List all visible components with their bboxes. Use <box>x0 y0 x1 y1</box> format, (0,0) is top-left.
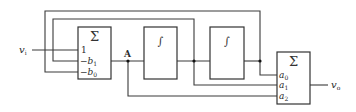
output-signal-label: vo <box>331 79 341 91</box>
junction-dot-1 <box>192 59 195 62</box>
integral-icon: ∫ <box>158 35 164 48</box>
sum-block-right: Σ a0 a1 a2 <box>277 52 310 104</box>
integral-icon: ∫ <box>224 35 230 48</box>
node-a-dot <box>126 59 129 62</box>
sum-block-left: Σ 1 −b1 −b0 <box>78 27 111 79</box>
sum-left-input-1: 1 <box>81 45 87 55</box>
junction-dot-2 <box>258 59 261 62</box>
sigma-icon: Σ <box>90 29 99 44</box>
a0-wire <box>260 61 277 75</box>
integrator-block-2: ∫ <box>210 27 244 79</box>
integrator-block-1: ∫ <box>144 27 177 79</box>
sigma-icon: Σ <box>289 54 298 69</box>
node-a-label: A <box>123 49 132 59</box>
block-diagram: Σ 1 −b1 −b0 ∫ ∫ Σ a0 a1 a2 vi <box>0 0 356 112</box>
input-signal-label: vi <box>19 44 27 56</box>
